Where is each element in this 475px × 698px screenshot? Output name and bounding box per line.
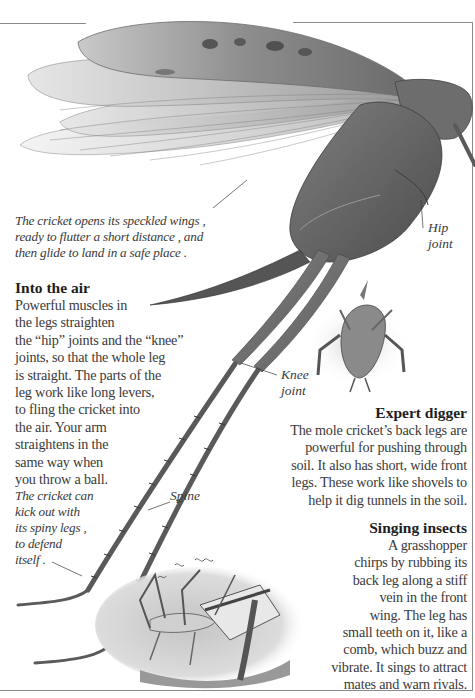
caption-line: The cricket can xyxy=(15,488,93,504)
body-line: back leg along a stiff xyxy=(227,572,467,589)
body-line: the legs straighten xyxy=(15,314,183,331)
spine-label: Spine xyxy=(170,488,200,504)
body-line: small teeth on it, like a xyxy=(227,624,467,641)
body-line: joints, so that the whole leg xyxy=(15,349,183,366)
label-line: Knee xyxy=(281,367,309,383)
defend-caption: The cricket can kick out with its spiny … xyxy=(15,488,93,568)
body-line: the air. Your arm xyxy=(15,419,183,436)
knee-joint-label: Knee joint xyxy=(281,367,309,399)
section-heading: Expert digger xyxy=(232,404,467,422)
caption-line: then glide to land in a safe place . xyxy=(15,245,206,261)
body-line: legs. These work like shovels to xyxy=(232,474,467,491)
section-body: The mole cricket’s back legs are powerfu… xyxy=(232,422,467,509)
section-singing-insects: Singing insects A grasshopper chirps by … xyxy=(227,519,467,694)
label-line: Spine xyxy=(170,488,200,504)
body-line: help it dig tunnels in the soil. xyxy=(232,492,467,509)
section-heading: Singing insects xyxy=(227,519,467,537)
body-line: The mole cricket’s back legs are xyxy=(232,422,467,439)
body-line: straightens in the xyxy=(15,436,183,453)
body-line: wing. The leg has xyxy=(227,607,467,624)
caption-line: itself . xyxy=(15,552,93,568)
body-line: mates and warn rivals. xyxy=(227,676,467,693)
caption-line: to defend xyxy=(15,536,93,552)
body-line: is straight. The parts of the xyxy=(15,367,183,384)
caption-line: The cricket opens its speckled wings , xyxy=(15,213,206,229)
body-line: same way when xyxy=(15,454,183,471)
body-line: Powerful muscles in xyxy=(15,297,183,314)
body-line: A grasshopper xyxy=(227,537,467,554)
body-line: chirps by rubbing its xyxy=(227,554,467,571)
caption-line: its spiny legs , xyxy=(15,520,93,536)
caption-line: kick out with xyxy=(15,504,93,520)
body-line: leg work like long levers, xyxy=(15,384,183,401)
body-line: the “hip” joints and the “knee” xyxy=(15,332,183,349)
body-line: soil. It also has short, wide front xyxy=(232,457,467,474)
book-page: The cricket opens its speckled wings , r… xyxy=(0,0,475,698)
caption-line: ready to flutter a short distance , and xyxy=(15,229,206,245)
section-heading: Into the air xyxy=(15,279,183,297)
body-line: to fling the cricket into xyxy=(15,401,183,418)
section-body: A grasshopper chirps by rubbing its back… xyxy=(227,537,467,694)
body-line: powerful for pushing through xyxy=(232,439,467,456)
body-line: comb, which buzz and xyxy=(227,641,467,658)
body-line: you throw a ball. xyxy=(15,471,183,488)
section-body: Powerful muscles in the legs straighten … xyxy=(15,297,183,488)
section-into-the-air: Into the air Powerful muscles in the leg… xyxy=(15,279,183,488)
section-expert-digger: Expert digger The mole cricket’s back le… xyxy=(232,404,467,509)
body-line: vein in the front xyxy=(227,589,467,606)
hip-joint-label: Hip joint xyxy=(428,220,453,252)
label-line: joint xyxy=(281,383,309,399)
label-line: joint xyxy=(428,236,453,252)
wings-caption: The cricket opens its speckled wings , r… xyxy=(15,213,206,261)
label-line: Hip xyxy=(428,220,453,236)
body-line: vibrate. It sings to attract xyxy=(227,659,467,676)
